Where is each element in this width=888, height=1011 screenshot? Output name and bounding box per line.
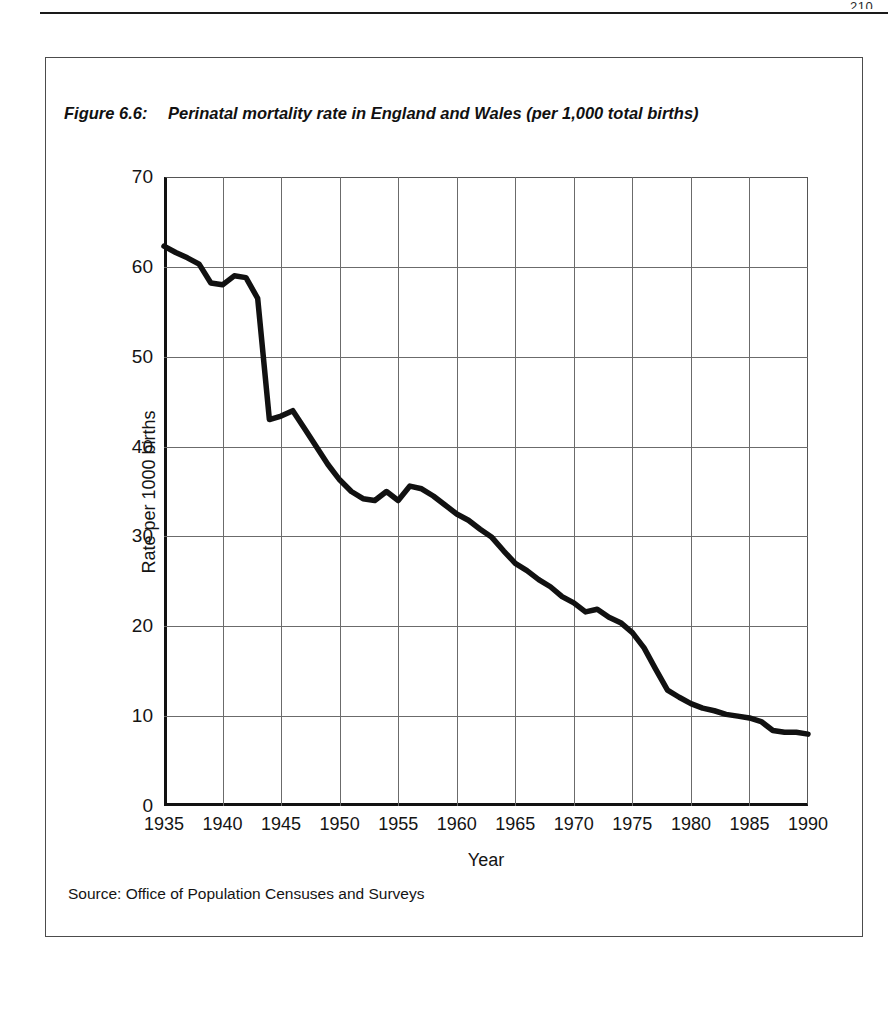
x-axis-tick-label: 1965 xyxy=(495,814,535,835)
x-axis-tick-label: 1970 xyxy=(554,814,594,835)
figure-label: Figure 6.6: xyxy=(64,104,168,123)
figure-title-text: Perinatal mortality rate in England and … xyxy=(168,104,699,122)
x-axis-tick-label: 1950 xyxy=(320,814,360,835)
x-axis-tick-label: 1945 xyxy=(261,814,301,835)
page-number: 210 xyxy=(850,0,884,9)
y-axis-tick-label: 60 xyxy=(132,256,153,278)
source-note: Source: Office of Population Censuses an… xyxy=(68,885,424,903)
x-axis-tick-label: 1980 xyxy=(671,814,711,835)
x-axis-tick-label: 1940 xyxy=(203,814,243,835)
x-axis-tick-label: 1935 xyxy=(144,814,184,835)
y-axis-title: Rate per 1000 births xyxy=(139,410,160,573)
y-axis-tick-label: 20 xyxy=(132,615,153,637)
x-axis-tick-label: 1990 xyxy=(788,814,828,835)
figure-container: Figure 6.6:Perinatal mortality rate in E… xyxy=(45,57,863,937)
plot-area: 010203040506070 193519401945195019551960… xyxy=(164,177,808,806)
x-axis-tick-label: 1975 xyxy=(612,814,652,835)
series-line-chart xyxy=(164,177,808,806)
x-axis-tick-label: 1955 xyxy=(378,814,418,835)
y-axis-tick-label: 70 xyxy=(132,166,153,188)
y-axis-tick-label: 10 xyxy=(132,705,153,727)
y-axis-tick-label: 50 xyxy=(132,346,153,368)
x-axis-tick-label: 1985 xyxy=(729,814,769,835)
x-axis-tick-label: 1960 xyxy=(437,814,477,835)
series-polyline xyxy=(164,246,808,734)
x-axis-title: Year xyxy=(164,850,808,871)
figure-caption: Figure 6.6:Perinatal mortality rate in E… xyxy=(64,104,846,123)
page-header-divider xyxy=(40,12,888,14)
